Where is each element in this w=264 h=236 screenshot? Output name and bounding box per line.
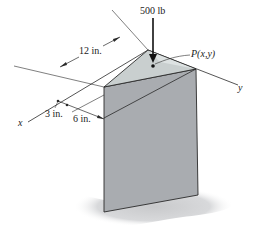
prism-column-diagram: 500 lb P(x,y) y x 12 in. 3 in. 6 in.	[0, 0, 264, 236]
load-label: 500 lb	[140, 5, 165, 16]
dimension-tick	[66, 104, 69, 107]
dimension-label-12: 12 in.	[79, 45, 102, 56]
diagram-canvas: 500 lb P(x,y) y x 12 in. 3 in. 6 in.	[0, 0, 264, 236]
arrowhead	[60, 62, 67, 67]
arrowhead	[113, 37, 120, 42]
extension-line	[14, 66, 104, 87]
x-axis-label: x	[17, 117, 23, 128]
extension-line	[72, 95, 104, 112]
arrowhead	[97, 115, 104, 119]
extension-line	[112, 10, 148, 50]
point-p-marker	[151, 64, 155, 68]
y-axis-label: y	[237, 82, 243, 93]
dimension-label-3: 3 in.	[45, 108, 63, 119]
point-p-label: P(x,y)	[190, 48, 216, 60]
prism-front-face	[104, 69, 198, 212]
dimension-label-6: 6 in.	[73, 113, 91, 124]
